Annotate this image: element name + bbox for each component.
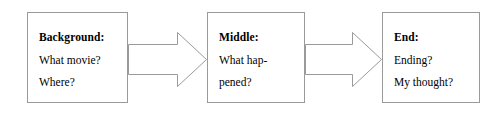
stage-line-end-1: Ending? — [394, 53, 475, 67]
stage-box-middle: Middle: What hap- pened? — [207, 12, 305, 103]
stage-line-background-2: Where? — [39, 75, 123, 89]
stage-line-middle-2: pened? — [219, 75, 300, 89]
stage-heading-middle: Middle: — [219, 30, 300, 44]
stage-line-middle-1: What hap- — [219, 53, 300, 67]
stage-heading-background: Background: — [39, 30, 123, 44]
stage-heading-end: End: — [394, 30, 475, 44]
arrow-background-to-middle-icon — [128, 32, 207, 87]
flow-diagram: Background: What movie? Where? Middle: W… — [0, 0, 504, 120]
stage-box-background: Background: What movie? Where? — [27, 12, 128, 103]
stage-box-end: End: Ending? My thought? — [382, 12, 480, 103]
stage-line-background-1: What movie? — [39, 53, 123, 67]
arrow-middle-to-end-icon — [305, 32, 382, 87]
stage-line-end-2: My thought? — [394, 75, 475, 89]
